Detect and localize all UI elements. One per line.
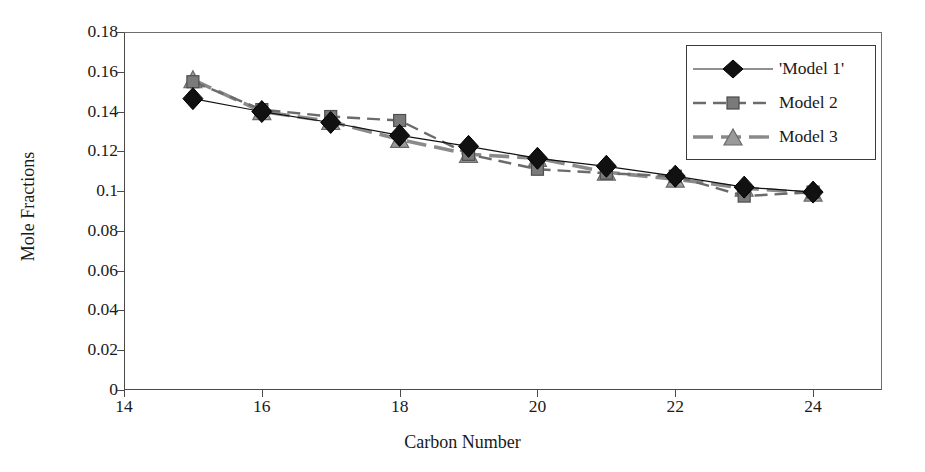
- y-tick-mark: [117, 310, 124, 311]
- y-tick-mark: [117, 271, 124, 272]
- legend-swatch-model-3: [687, 122, 779, 152]
- legend-item-model-1[interactable]: 'Model 1': [687, 52, 875, 86]
- data-point-diamond: [183, 88, 203, 110]
- y-tick-mark: [117, 32, 124, 33]
- x-axis-title: Carbon Number: [0, 432, 925, 453]
- legend-swatch-model-1: [687, 54, 779, 84]
- legend-item-model-2[interactable]: Model 2: [687, 86, 875, 120]
- legend-label-model-3: Model 3: [779, 128, 838, 146]
- y-axis-title: Mole Fractions: [18, 107, 39, 307]
- y-tick-mark: [117, 231, 124, 232]
- x-tick-mark: [124, 390, 125, 397]
- x-tick-mark: [537, 390, 538, 397]
- x-tick-label: 16: [232, 398, 292, 416]
- legend-label-model-1: 'Model 1': [779, 60, 844, 78]
- y-tick-mark: [117, 390, 124, 391]
- x-tick-label: 18: [370, 398, 430, 416]
- y-tick-mark: [117, 191, 124, 192]
- legend-swatch-model-2: [687, 88, 779, 118]
- y-tick-mark: [117, 350, 124, 351]
- x-tick-label: 20: [507, 398, 567, 416]
- x-tick-mark: [400, 390, 401, 397]
- x-tick-label: 22: [645, 398, 705, 416]
- chart-legend: 'Model 1' Model 2 Model 3: [686, 45, 876, 160]
- x-tick-mark: [813, 390, 814, 397]
- x-tick-label: 24: [783, 398, 843, 416]
- data-point-diamond: [321, 111, 341, 133]
- x-tick-label: 14: [94, 398, 154, 416]
- legend-label-model-2: Model 2: [779, 94, 838, 112]
- x-tick-mark: [262, 390, 263, 397]
- y-tick-mark: [117, 112, 124, 113]
- data-point-square: [187, 76, 199, 88]
- chart-figure: 00.020.040.060.080.10.120.140.160.18 Car…: [0, 0, 925, 472]
- legend-item-model-3[interactable]: Model 3: [687, 120, 875, 154]
- x-tick-mark: [675, 390, 676, 397]
- y-tick-mark: [117, 151, 124, 152]
- y-tick-mark: [117, 72, 124, 73]
